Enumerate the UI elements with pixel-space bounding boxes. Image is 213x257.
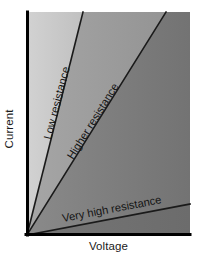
y-axis-label-text: Current [3,109,15,148]
y-axis-label: Current [0,0,18,257]
x-axis-label: Voltage [26,240,191,252]
chart-canvas: Low resistance Higher resistance Very hi… [0,0,213,257]
iv-characteristic-chart: Low resistance Higher resistance Very hi… [0,0,213,257]
